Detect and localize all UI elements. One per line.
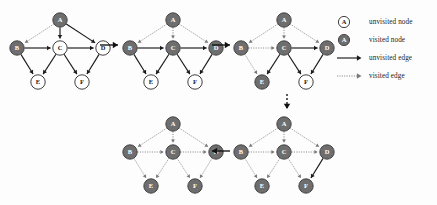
- node-E: E: [31, 75, 45, 89]
- node-label-C: C: [171, 148, 176, 155]
- edge-B-E: [245, 158, 257, 178]
- node-label-D: D: [325, 44, 330, 51]
- edge-A-D: [290, 24, 319, 43]
- legend-label-unvisited-node: unvisited node: [369, 18, 413, 26]
- edge-A-B: [25, 24, 54, 43]
- node-E: E: [144, 179, 158, 193]
- node-label-C: C: [58, 44, 63, 51]
- node-open-icon: A: [337, 14, 367, 30]
- node-label-B: B: [239, 44, 244, 51]
- edge-A-D: [290, 128, 319, 147]
- legend-label-visited-node: visited node: [369, 36, 405, 44]
- edge-A-D: [179, 128, 208, 147]
- legend-label-visited-edge: visited edge: [369, 72, 405, 80]
- graph-step-2: ABCDEF: [117, 6, 229, 96]
- node-F: F: [75, 75, 89, 89]
- node-label-C: C: [282, 44, 287, 51]
- graph-svg: ABCDEF: [117, 110, 229, 202]
- node-E: E: [255, 75, 269, 89]
- node-label-D: D: [325, 148, 330, 155]
- graph-step-1: ABCDEF: [4, 6, 116, 96]
- node-label-A: A: [282, 16, 287, 23]
- node-label-B: B: [128, 148, 133, 155]
- node-label-E: E: [260, 78, 264, 85]
- node-E: E: [144, 75, 158, 89]
- legend-label-unvisited-edge: unvisited edge: [369, 54, 412, 62]
- node-label-F: F: [80, 78, 84, 85]
- node-A: A: [166, 13, 180, 27]
- node-A: A: [277, 117, 291, 131]
- flow-2-to-3-arrow: [212, 40, 230, 50]
- flow-3-to-4-arrow: [282, 94, 292, 109]
- node-F: F: [188, 179, 202, 193]
- edge-D-F: [200, 158, 212, 178]
- graph-svg: ABCDEF: [117, 6, 229, 98]
- node-B: B: [10, 41, 24, 55]
- arrow-dotted-icon: [337, 68, 367, 84]
- node-C: C: [166, 41, 180, 55]
- node-label-F: F: [193, 78, 197, 85]
- node-label-F: F: [304, 182, 308, 189]
- figure-canvas: ABCDEFABCDEFABCDEFABCDEFABCDEF Aunvisite…: [0, 0, 437, 205]
- node-label-A: A: [171, 16, 176, 23]
- node-label-C: C: [282, 148, 287, 155]
- node-label-E: E: [149, 78, 153, 85]
- node-label-C: C: [171, 44, 176, 51]
- node-B: B: [123, 41, 137, 55]
- edge-A-B: [138, 128, 167, 147]
- edge-C-F: [288, 158, 301, 178]
- node-label-E: E: [36, 78, 40, 85]
- node-A: A: [166, 117, 180, 131]
- node-B: B: [234, 41, 248, 55]
- svg-text:A: A: [342, 36, 347, 43]
- node-F: F: [188, 75, 202, 89]
- graph-svg: ABCDEF: [228, 6, 340, 98]
- node-label-B: B: [128, 44, 133, 51]
- legend-row-visited-edge: visited edge: [337, 68, 405, 84]
- node-A: A: [53, 13, 67, 27]
- legend: Aunvisited nodeAvisited nodeunvisited ed…: [337, 14, 437, 86]
- node-B: B: [123, 145, 137, 159]
- node-B: B: [234, 145, 248, 159]
- node-F: F: [299, 179, 313, 193]
- flow-1-to-2-arrow: [100, 40, 118, 50]
- edge-C-E: [156, 158, 169, 178]
- node-label-A: A: [282, 120, 287, 127]
- legend-visited-node-icon: A: [337, 33, 367, 47]
- legend-row-unvisited-node: Aunvisited node: [337, 14, 413, 30]
- node-label-E: E: [260, 182, 264, 189]
- node-label-B: B: [239, 148, 244, 155]
- edge-B-E: [134, 158, 146, 178]
- svg-text:A: A: [342, 18, 347, 25]
- graph-step-3: ABCDEF: [228, 6, 340, 96]
- node-E: E: [255, 179, 269, 193]
- flow-arrow-svg: [212, 40, 230, 50]
- node-C: C: [277, 145, 291, 159]
- node-A: A: [277, 13, 291, 27]
- graph-svg: ABCDEF: [228, 110, 340, 202]
- legend-visited-edge-icon: [337, 69, 367, 83]
- node-C: C: [53, 41, 67, 55]
- node-label-B: B: [15, 44, 20, 51]
- graph-step-4: ABCDEF: [228, 110, 340, 200]
- legend-row-unvisited-edge: unvisited edge: [337, 50, 412, 66]
- node-D: D: [320, 41, 334, 55]
- edge-A-D: [179, 24, 208, 43]
- edge-C-E: [267, 158, 280, 178]
- edge-A-B: [138, 24, 167, 43]
- flow-arrow-svg: [212, 146, 230, 156]
- flow-4-to-5-arrow: [212, 146, 230, 156]
- edge-C-F: [177, 158, 190, 178]
- edge-A-D: [66, 24, 95, 43]
- graph-svg: ABCDEF: [4, 6, 116, 98]
- node-F: F: [299, 75, 313, 89]
- node-label-A: A: [58, 16, 63, 23]
- legend-unvisited-node-icon: A: [337, 15, 367, 29]
- node-C: C: [166, 145, 180, 159]
- flow-arrow-svg: [282, 94, 292, 109]
- node-filled-icon: A: [337, 32, 367, 48]
- flow-arrow-svg: [100, 40, 118, 50]
- node-label-F: F: [304, 78, 308, 85]
- edge-B-E: [245, 54, 257, 74]
- node-label-F: F: [193, 182, 197, 189]
